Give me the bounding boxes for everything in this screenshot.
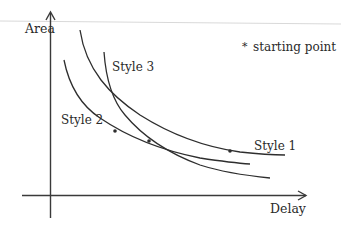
- x-axis: [22, 191, 306, 200]
- curve-label-style-1: Style 1: [254, 139, 296, 153]
- starting-point-marker-icon: [147, 139, 151, 143]
- area-delay-tradeoff-diagram: Area Delay * starting point Style 1 Styl…: [0, 0, 341, 230]
- legend: * starting point: [242, 40, 336, 54]
- y-axis: [46, 12, 55, 218]
- starting-point-marker-icon: [228, 149, 232, 153]
- curve-label-style-3: Style 3: [112, 60, 154, 74]
- x-axis-label: Delay: [270, 201, 307, 216]
- starting-point-marker-icon: [113, 129, 117, 133]
- curve-label-style-2: Style 2: [61, 113, 103, 127]
- legend-marker-icon: *: [242, 40, 248, 53]
- y-axis-label: Area: [24, 21, 55, 36]
- legend-text: starting point: [253, 40, 336, 54]
